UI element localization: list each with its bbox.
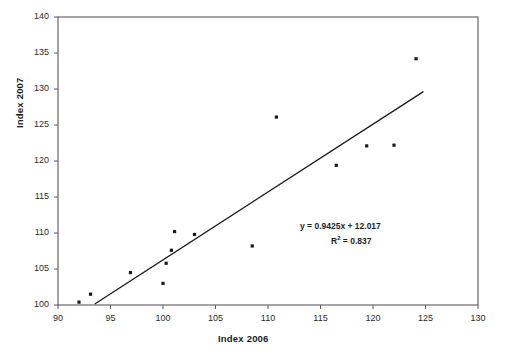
y-tick-label: 125	[23, 119, 49, 129]
x-tick-label: 110	[255, 313, 281, 323]
x-tick-label: 120	[360, 313, 386, 323]
x-tick-label: 130	[465, 313, 491, 323]
r-squared-value: = 0.837	[340, 236, 371, 246]
y-tick-label: 100	[23, 299, 49, 309]
x-tick-label: 105	[203, 313, 229, 323]
x-tick-label: 90	[45, 313, 71, 323]
data-points	[77, 57, 417, 304]
x-tick-label: 115	[308, 313, 334, 323]
plot-canvas	[0, 0, 513, 358]
x-tick-label: 125	[413, 313, 439, 323]
y-tick-label: 120	[23, 155, 49, 165]
y-tick-marks	[54, 17, 58, 305]
r-squared-label: R2 = 0.837	[331, 235, 371, 246]
x-tick-label: 95	[98, 313, 124, 323]
trend-line	[95, 92, 424, 304]
y-tick-label: 115	[23, 191, 49, 201]
regression-equation-label: y = 0.9425x + 12.017	[300, 221, 381, 231]
y-tick-label: 130	[23, 83, 49, 93]
scatter-chart: Index 2007 Index 2006 100105110115120125…	[0, 0, 513, 358]
y-tick-label: 110	[23, 227, 49, 237]
y-tick-label: 105	[23, 263, 49, 273]
x-tick-marks	[58, 305, 478, 309]
x-tick-label: 100	[150, 313, 176, 323]
y-tick-label: 140	[23, 11, 49, 21]
y-tick-label: 135	[23, 47, 49, 57]
